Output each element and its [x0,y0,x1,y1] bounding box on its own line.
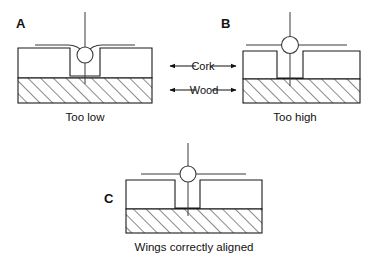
panel-a-letter: A [16,16,26,31]
cork-label: Cork [191,60,215,72]
panel-c-caption: Wings correctly aligned [135,241,254,253]
panel-b-letter: B [221,16,230,31]
panel-c-bead [180,166,196,182]
panel-a-caption: Too low [66,111,106,123]
panel-c-letter: C [104,191,114,206]
panel-b-bead [282,37,299,54]
figure-container: A Too low B Too [0,0,377,260]
needle-alignment-diagram: A Too low B Too [0,0,377,260]
panel-b-wood-layer-fill [243,79,360,103]
panel-c-wood-layer-fill [126,209,262,233]
wood-label: Wood [190,84,219,96]
panel-a-bead [77,47,93,63]
panel-b-caption: Too high [273,111,316,123]
